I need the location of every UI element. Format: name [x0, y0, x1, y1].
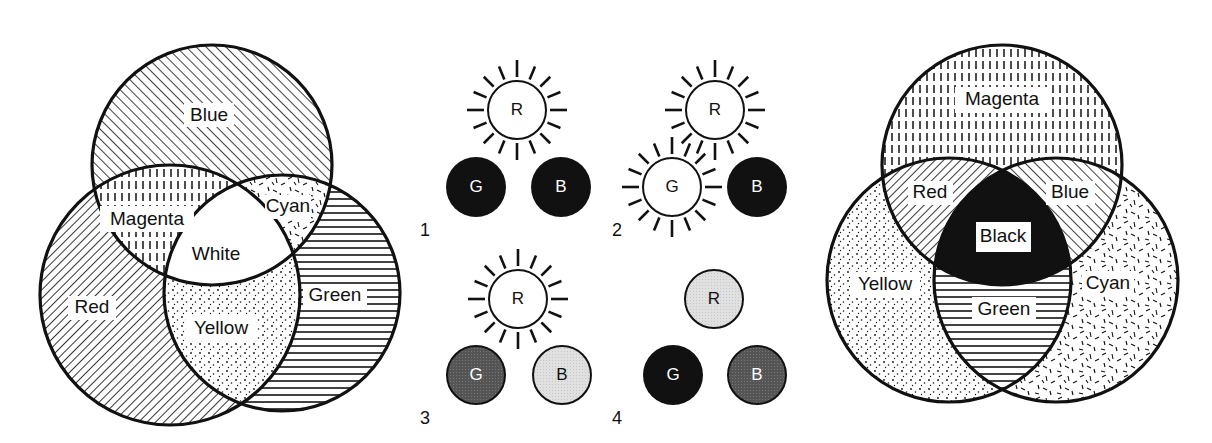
letter-r: R [512, 289, 524, 308]
label-green: Green [978, 298, 1031, 319]
label-magenta: Magenta [965, 88, 1039, 109]
label-blue: Blue [1051, 181, 1089, 202]
letter-g: G [469, 365, 482, 384]
label-cyan: Cyan [266, 195, 310, 216]
label-yellow: Yellow [858, 273, 913, 294]
panel-number-1: 1 [420, 220, 430, 240]
label-magenta: Magenta [110, 208, 184, 229]
panel-2: R G B 2 [606, 44, 787, 254]
subtractive-venn-diagram: Magenta Red Blue Black Yellow Green Cyan [827, 45, 1178, 402]
panel-number-3: 3 [420, 408, 430, 428]
letter-b: B [751, 177, 762, 196]
letter-b: B [556, 365, 567, 384]
label-white: White [192, 243, 241, 264]
additive-venn-diagram: Blue Magenta Cyan White Red Green Yellow [40, 45, 400, 425]
letter-b: B [751, 365, 762, 384]
label-blue: Blue [190, 104, 228, 125]
label-black: Black [980, 225, 1027, 246]
panel-3: R G B 3 [420, 233, 591, 428]
letter-r: R [708, 289, 720, 308]
letter-g: G [666, 365, 679, 384]
letter-b: B [555, 177, 566, 196]
letter-r: R [511, 100, 523, 119]
label-green: Green [309, 284, 362, 305]
label-yellow: Yellow [194, 317, 249, 338]
color-mixing-figure: Blue Magenta Cyan White Red Green Yellow… [0, 0, 1212, 443]
letter-g: G [469, 177, 482, 196]
label-cyan: Cyan [1086, 272, 1130, 293]
panel-number-2: 2 [612, 220, 622, 240]
letter-g: G [665, 177, 678, 196]
panel-number-4: 4 [612, 408, 622, 428]
letter-r: R [709, 100, 721, 119]
label-red: Red [913, 181, 948, 202]
label-red: Red [75, 296, 110, 317]
light-source-panels: R G B 1 R G B 2 R G B 3 [420, 44, 787, 428]
panel-4: R G B 4 [612, 270, 786, 428]
panel-1: R G B 1 [420, 44, 591, 240]
